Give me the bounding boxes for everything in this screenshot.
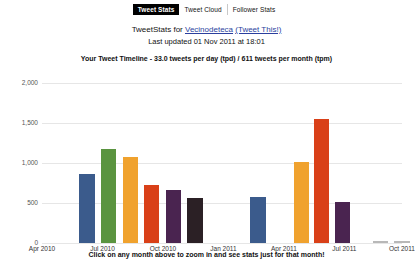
y-axis-tick-label: 2,000 (2, 79, 38, 86)
chart-help-text: Click on any month above to zoom in and … (0, 251, 413, 258)
tab-follower-stats[interactable]: Follower Stats (227, 4, 281, 15)
gridline (42, 123, 402, 124)
tweet-timeline-chart: 05001,0001,5002,000 Apr 2010Jul 2010Oct … (0, 72, 413, 247)
chart-bar[interactable] (187, 198, 202, 243)
gridline (42, 243, 402, 244)
header-block: TweetStats for Vecinodeteca (Tweet This!… (0, 24, 413, 47)
last-updated-text: Last updated 01 Nov 2011 at 18:01 (0, 36, 413, 47)
tab-tweet-stats[interactable]: Tweet Stats (133, 4, 180, 15)
timeline-subtitle: Your Tweet Timeline - 33.0 tweets per da… (0, 55, 413, 62)
plot-area (42, 83, 402, 243)
chart-bar[interactable] (79, 174, 94, 243)
chart-bar[interactable] (314, 119, 329, 243)
y-axis-tick-label: 1,000 (2, 159, 38, 166)
y-axis-labels: 05001,0001,5002,000 (0, 83, 38, 243)
tab-bar: Tweet Stats Tweet Cloud Follower Stats (0, 4, 413, 15)
chart-bar[interactable] (294, 162, 309, 243)
chart-bar[interactable] (250, 197, 265, 243)
tweet-this-link[interactable]: (Tweet This!) (235, 25, 281, 34)
chart-bar[interactable] (101, 149, 116, 243)
gridline (42, 83, 402, 84)
chart-bar[interactable] (394, 241, 409, 243)
tab-strip: Tweet Stats Tweet Cloud Follower Stats (133, 4, 281, 15)
gridline (42, 163, 402, 164)
chart-bar[interactable] (335, 202, 350, 243)
chart-bar[interactable] (144, 185, 159, 243)
chart-bar[interactable] (123, 157, 138, 243)
y-axis-tick-label: 500 (2, 199, 38, 206)
chart-bar[interactable] (373, 241, 388, 243)
page-title: TweetStats for Vecinodeteca (Tweet This!… (0, 24, 413, 35)
page-title-prefix: TweetStats for (132, 25, 185, 34)
tab-tweet-cloud[interactable]: Tweet Cloud (179, 4, 226, 15)
username-link[interactable]: Vecinodeteca (185, 25, 233, 34)
chart-bar[interactable] (166, 190, 181, 243)
y-axis-tick-label: 1,500 (2, 119, 38, 126)
